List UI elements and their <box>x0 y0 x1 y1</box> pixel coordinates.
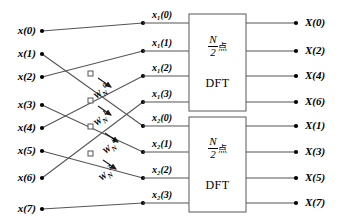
input-node-6 <box>40 176 44 180</box>
intermediate-label-x1-0: x₁(0) <box>152 9 172 20</box>
edge-x7-to-x2-3 <box>42 203 143 209</box>
input-node-0 <box>40 29 44 33</box>
upper-dft-fraction-row: N 2 点 <box>189 34 246 58</box>
intermediate-label-x2-3: x₂(3) <box>152 189 172 200</box>
input-node-4 <box>40 126 44 130</box>
input-node-3 <box>40 103 44 107</box>
junction-square-3 <box>88 124 93 129</box>
input-label-0: x(0) <box>2 24 36 36</box>
input-label-6: x(6) <box>2 171 36 183</box>
output-node-1 <box>294 49 298 53</box>
junction-square-1 <box>88 71 93 76</box>
intermediate-label-x2-2: x₂(2) <box>152 164 172 175</box>
output-label-3: X(6) <box>305 95 325 107</box>
input-label-4: x(4) <box>2 121 36 133</box>
intermediate-label-x1-3: x₁(3) <box>152 88 172 99</box>
lower-dft-fraction-row: N 2 点 <box>189 136 246 160</box>
output-nodes <box>294 21 298 205</box>
upper-dft-operation-label: DFT <box>189 76 246 91</box>
output-node-0 <box>294 21 298 25</box>
lower-dft-operation-label: DFT <box>189 178 246 193</box>
input-label-7: x(7) <box>2 202 36 214</box>
output-label-2: X(4) <box>305 69 325 81</box>
output-label-4: X(1) <box>305 119 325 131</box>
intermediate-label-x1-1: x₁(1) <box>152 37 172 48</box>
output-node-4 <box>294 124 298 128</box>
fft-butterfly-diagram: x(0) x(1) x(2) x(3) x(4) x(5) x(6) x(7) … <box>0 0 340 223</box>
input-node-7 <box>40 207 44 211</box>
input-node-1 <box>40 52 44 56</box>
output-node-2 <box>294 74 298 78</box>
lower-dft-block <box>189 117 246 212</box>
lower-dft-denominator: 2 <box>208 149 217 161</box>
upper-dft-unit-label: 点 <box>218 42 227 52</box>
upper-dft-fraction: N 2 <box>208 34 217 58</box>
input-label-2: x(2) <box>2 70 36 82</box>
output-label-5: X(3) <box>305 145 325 157</box>
output-label-6: X(5) <box>305 171 325 183</box>
input-label-3: x(3) <box>2 98 36 110</box>
junction-square-2 <box>88 98 93 103</box>
output-node-7 <box>294 201 298 205</box>
intermediate-label-x1-2: x₁(2) <box>152 62 172 73</box>
upper-dft-block <box>189 14 246 111</box>
output-node-3 <box>294 100 298 104</box>
input-node-5 <box>40 149 44 153</box>
output-node-5 <box>294 150 298 154</box>
output-label-1: X(2) <box>305 44 325 56</box>
junction-square-4 <box>88 151 93 156</box>
intermediate-label-x2-1: x₂(1) <box>152 138 172 149</box>
edge-x0-to-x1-0 <box>42 23 143 31</box>
upper-dft-denominator: 2 <box>208 47 217 59</box>
output-node-6 <box>294 176 298 180</box>
input-label-5: x(5) <box>2 144 36 156</box>
lower-dft-fraction: N 2 <box>208 136 217 160</box>
intermediate-label-x2-0: x₂(0) <box>152 112 172 123</box>
input-node-2 <box>40 75 44 79</box>
lower-dft-numerator: N <box>208 136 217 149</box>
upper-dft-numerator: N <box>208 34 217 47</box>
output-label-0: X(0) <box>305 16 325 28</box>
lower-dft-unit-label: 点 <box>218 144 227 154</box>
input-nodes <box>40 29 44 211</box>
edge-x6-to-x1-3 <box>42 102 143 178</box>
output-label-7: X(7) <box>305 196 325 208</box>
input-label-1: x(1) <box>2 47 36 59</box>
output-edges <box>246 23 296 203</box>
